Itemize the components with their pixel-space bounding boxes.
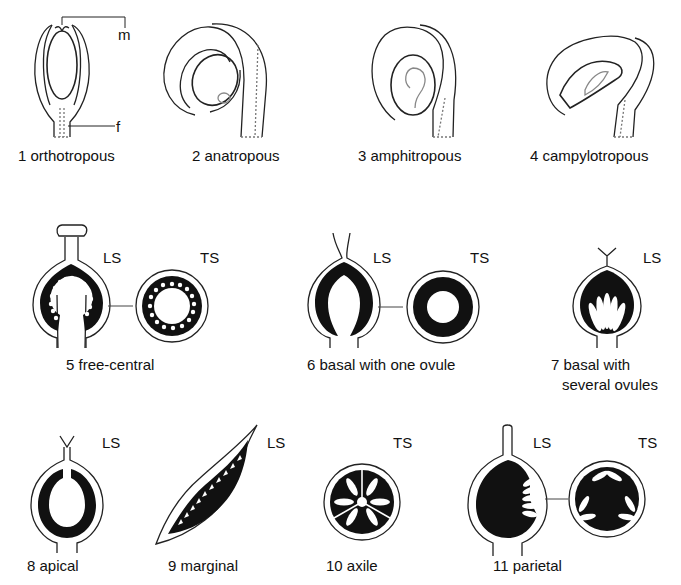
free-central-ts-drawing bbox=[136, 270, 208, 342]
ls-marker-9: LS bbox=[267, 434, 285, 451]
parietal-ts-drawing bbox=[569, 461, 645, 537]
basal-one-ovule-ls-drawing bbox=[308, 233, 380, 348]
ts-marker-6: TS bbox=[470, 249, 489, 266]
ls-marker-8: LS bbox=[102, 434, 120, 451]
amphitropous-ovule-drawing bbox=[372, 25, 456, 137]
basal-one-ovule-ts-drawing bbox=[407, 271, 479, 343]
label-anatropous: 2 anatropous bbox=[192, 147, 280, 164]
label-parietal: 11 parietal bbox=[493, 557, 562, 574]
ls-marker-6: LS bbox=[373, 249, 391, 266]
micropyle-callout: m bbox=[118, 26, 131, 43]
label-free-central: 5 free-central bbox=[66, 356, 154, 373]
ts-marker-5: TS bbox=[200, 249, 219, 266]
ts-marker-11: TS bbox=[638, 434, 657, 451]
label-amphitropous: 3 amphitropous bbox=[358, 147, 461, 164]
marginal-ls-drawing bbox=[156, 425, 257, 544]
campylotropous-ovule-drawing bbox=[547, 36, 654, 137]
orthotropous-ovule-drawing bbox=[35, 17, 125, 137]
label-basal-one-ovule: 6 basal with one ovule bbox=[307, 356, 455, 373]
ls-marker-7: LS bbox=[643, 249, 661, 266]
label-basal-several-line2: several ovules bbox=[562, 376, 658, 393]
ls-marker-5: LS bbox=[103, 249, 121, 266]
apical-ls-drawing bbox=[31, 436, 103, 553]
diagram-canvas bbox=[0, 0, 681, 585]
funicle-callout: f bbox=[116, 118, 120, 135]
axile-ts-drawing bbox=[324, 464, 400, 540]
label-orthotropous: 1 orthotropous bbox=[18, 147, 115, 164]
ls-marker-11: LS bbox=[533, 434, 551, 451]
label-basal-several-line1: 7 basal with bbox=[551, 356, 630, 373]
label-marginal: 9 marginal bbox=[168, 557, 238, 574]
label-axile: 10 axile bbox=[326, 557, 378, 574]
label-apical: 8 apical bbox=[27, 557, 79, 574]
ts-marker-10: TS bbox=[393, 434, 412, 451]
basal-several-ovules-ls-drawing bbox=[573, 248, 641, 348]
label-campylotropous: 4 campylotropous bbox=[530, 147, 648, 164]
anatropous-ovule-drawing bbox=[164, 24, 267, 137]
free-central-ls-drawing bbox=[33, 225, 110, 348]
